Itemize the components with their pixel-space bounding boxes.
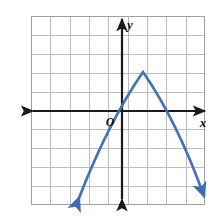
- origin-label: O: [106, 115, 115, 129]
- coordinate-graph: y x O: [0, 0, 214, 217]
- x-axis-label: x: [199, 115, 207, 130]
- y-axis-label: y: [125, 17, 133, 32]
- graph-figure: y x O: [0, 0, 214, 217]
